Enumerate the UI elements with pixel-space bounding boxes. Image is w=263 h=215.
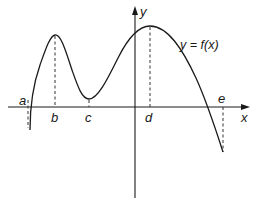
- label-b: b: [51, 110, 58, 125]
- y-axis-label: y: [139, 4, 148, 19]
- label-a: a: [19, 93, 26, 108]
- y-axis-arrow-icon: [132, 6, 138, 15]
- label-e: e: [218, 91, 225, 106]
- function-graph: a b c d e x y y = f(x): [0, 0, 263, 215]
- label-d: d: [145, 110, 153, 125]
- label-c: c: [85, 110, 92, 125]
- x-axis: [8, 104, 250, 110]
- x-axis-label: x: [240, 110, 248, 125]
- curve-equation-label: y = f(x): [179, 38, 219, 52]
